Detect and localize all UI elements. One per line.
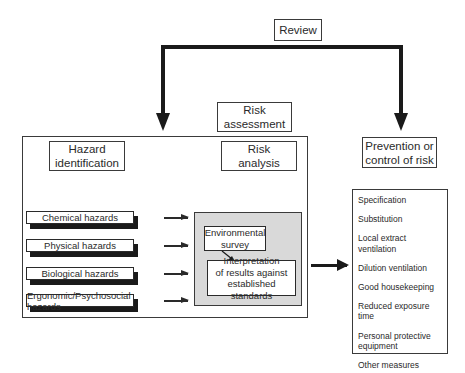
hazard-identification-label: Hazard identification — [55, 142, 119, 170]
arrow-right-icon — [164, 245, 188, 247]
arrow-right-icon — [164, 273, 188, 275]
list-item: Other measures — [358, 360, 447, 371]
list-item: Specification — [358, 195, 447, 206]
list-item: Substitution — [358, 214, 447, 225]
arrow-right-icon — [311, 264, 347, 267]
interpretation-box: Interpretation of results against establ… — [207, 260, 296, 296]
arrow-down-icon — [156, 113, 170, 131]
prevention-box: Prevention or control of risk — [362, 137, 437, 168]
hazard-chemical: Chemical hazards — [26, 211, 134, 224]
arrow-down-icon — [394, 113, 408, 131]
controls-list: Specification Substitution Local extract… — [352, 189, 448, 354]
list-item: Good housekeeping — [358, 282, 447, 293]
list-item: Personal protective equipment — [358, 331, 447, 352]
arrow-right-icon — [164, 217, 188, 219]
review-connector-horizontal — [161, 45, 403, 49]
risk-analysis-box: Risk analysis — [221, 141, 297, 171]
review-connector-left — [161, 45, 165, 115]
hazard-physical: Physical hazards — [26, 239, 134, 252]
risk-analysis-label: Risk analysis — [238, 142, 280, 170]
hazard-ergonomic-psychosocial: Ergonomic/Psychosocial hazards — [26, 294, 134, 307]
hazard-biological: Biological hazards — [26, 267, 134, 280]
list-item: Local extract ventilation — [358, 233, 447, 254]
hazard-identification-box: Hazard identification — [49, 141, 125, 171]
environmental-survey-box: Environmental survey — [204, 226, 266, 251]
prevention-label: Prevention or control of risk — [365, 139, 433, 167]
review-box: Review — [274, 19, 322, 41]
list-item: Reduced exposure time — [358, 301, 447, 322]
arrow-right-icon — [164, 300, 188, 302]
review-connector-right — [399, 45, 403, 115]
list-item: Dilution ventilation — [358, 263, 447, 274]
risk-assessment-label: Risk assessment — [224, 103, 285, 131]
risk-assessment-box: Risk assessment — [217, 102, 292, 132]
review-label: Review — [279, 23, 317, 37]
